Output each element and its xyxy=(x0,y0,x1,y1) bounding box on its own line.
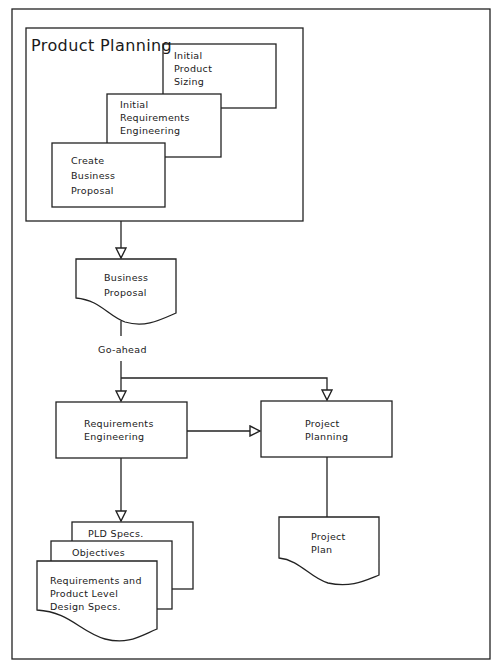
requirements-specs-label: Requirements and Product Level Design Sp… xyxy=(50,574,142,613)
diagram-canvas xyxy=(0,0,501,666)
objectives-label: Objectives xyxy=(72,546,125,559)
product-planning-title: Product Planning xyxy=(31,36,172,55)
project-plan-label: Project Plan xyxy=(311,530,346,556)
create-business-proposal-label: Create Business Proposal xyxy=(71,153,115,198)
requirements-engineering-label: Requirements Engineering xyxy=(84,417,154,443)
business-proposal-label: Business Proposal xyxy=(104,270,148,300)
pld-specs-label: PLD Specs. xyxy=(88,527,143,540)
initial-product-sizing-label: Initial Product Sizing xyxy=(174,49,212,88)
project-planning-label: Project Planning xyxy=(305,417,348,443)
go-ahead-label: Go-ahead xyxy=(98,343,147,356)
initial-requirements-label: Initial Requirements Engineering xyxy=(120,98,190,137)
